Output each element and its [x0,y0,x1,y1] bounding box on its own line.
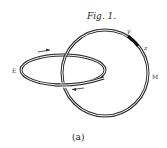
arrow-lower [72,88,84,91]
arrow-upper [38,49,50,53]
figure-caption: (a) [72,132,84,142]
linked-rings-diagram [0,0,167,148]
label-E: E [12,67,16,74]
segment-yz [128,36,138,46]
label-M: M [152,73,158,80]
label-y: y [127,27,130,34]
label-z: z [144,44,147,51]
